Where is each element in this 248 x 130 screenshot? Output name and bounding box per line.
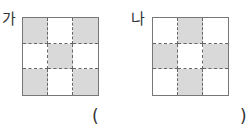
answer-close-paren: )	[240, 106, 247, 126]
grid-figure-na	[152, 17, 229, 96]
shaded-cell	[178, 18, 203, 44]
shaded-cell	[48, 44, 73, 70]
unshaded-cell	[23, 44, 48, 70]
shaded-cell	[73, 69, 98, 95]
shaded-cell	[23, 69, 48, 95]
unshaded-cell	[178, 44, 203, 70]
unshaded-cell	[48, 18, 73, 44]
shaded-cell	[73, 18, 98, 44]
shaded-cell	[153, 44, 178, 70]
figure-label-ga: 가	[2, 10, 16, 28]
figure-label-na: 나	[131, 10, 145, 28]
answer-open-paren: (	[92, 106, 99, 126]
unshaded-cell	[153, 69, 178, 95]
shaded-cell	[178, 69, 203, 95]
unshaded-cell	[203, 69, 228, 95]
grid-figure-ga	[22, 17, 99, 96]
unshaded-cell	[203, 18, 228, 44]
shaded-cell	[23, 18, 48, 44]
answer-blank[interactable]	[100, 106, 235, 126]
unshaded-cell	[48, 69, 73, 95]
unshaded-cell	[73, 44, 98, 70]
shaded-cell	[203, 44, 228, 70]
unshaded-cell	[153, 18, 178, 44]
